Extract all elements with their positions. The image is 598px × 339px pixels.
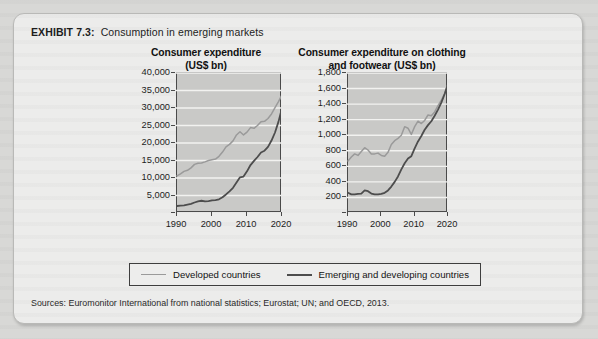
legend-item-emerging: Emerging and developing countries — [287, 269, 469, 280]
chart-right-y-axis-tick-label: 1,200 — [318, 114, 341, 124]
chart-legend: Developed countries Emerging and develop… — [129, 263, 481, 286]
legend-label-emerging: Emerging and developing countries — [319, 269, 469, 280]
chart-right-y-axis-tick-mark — [342, 72, 346, 73]
chart-left-y-axis-tick-label: 30,000 — [142, 102, 170, 112]
chart-left-x-axis-tick-label: 1990 — [166, 219, 187, 229]
chart-right-y-axis-tick-mark — [342, 103, 346, 104]
exhibit-card: EXHIBIT 7.3:Consumption in emerging mark… — [13, 13, 583, 324]
chart-left-plot-wrap: 40,00035,00030,00025,00020,00015,00010,0… — [122, 72, 290, 247]
chart-right-y-axis-tick-mark — [342, 119, 346, 120]
chart-right-x-axis-tick-label: 2020 — [437, 219, 458, 229]
chart-left-y-axis-tick-mark — [171, 142, 175, 143]
exhibit-title-text: Consumption in emerging markets — [101, 26, 264, 38]
chart-left-title-line-1: Consumer expenditure — [122, 47, 290, 60]
chart-right-x-axis-tick-mark — [447, 212, 448, 216]
chart-left-y-axis-tick-mark — [171, 90, 175, 91]
sources-note: Sources: Euromonitor International from … — [31, 298, 389, 308]
chart-left-y-axis-tick-mark — [171, 107, 175, 108]
chart-left-plot-area — [176, 72, 281, 212]
chart-right-y-axis-tick-mark — [342, 181, 346, 182]
chart-left-y-axis: 40,00035,00030,00025,00020,00015,00010,0… — [122, 72, 170, 212]
legend-line-emerging-icon — [287, 274, 312, 276]
chart-right-x-axis-tick-mark — [347, 212, 348, 216]
chart-right-y-axis-tick-label: 1,800 — [318, 67, 341, 77]
chart-left-y-axis-tick-label: 20,000 — [142, 137, 170, 147]
chart-left-y-axis-tick-mark — [171, 212, 175, 213]
legend-item-developed: Developed countries — [141, 269, 260, 280]
chart-left-x-axis-tick-mark — [246, 212, 247, 216]
chart-left-x-axis-tick-label: 2010 — [236, 219, 257, 229]
chart-right-plot-wrap: 1,8001,6001,4001,2001,000800600400200 19… — [297, 72, 467, 247]
chart-right-y-axis-tick-label: 600 — [325, 160, 341, 170]
series-line-emerging-and-developing-countries — [177, 108, 281, 206]
series-line-developed-countries — [348, 84, 447, 161]
chart-right-y-axis-tick-label: 1,400 — [318, 98, 341, 108]
series-line-developed-countries — [177, 95, 281, 176]
chart-right-y-axis-tick-label: 1,600 — [318, 83, 341, 93]
chart-consumer-expenditure: Consumer expenditure (US$ bn) 40,00035,0… — [122, 47, 290, 247]
chart-left-y-axis-tick-label: 5,000 — [147, 190, 170, 200]
chart-right-y-axis-tick-label: 200 — [325, 191, 341, 201]
chart-left-y-axis-tick-label: 15,000 — [142, 155, 170, 165]
chart-left-y-axis-tick-mark — [171, 160, 175, 161]
chart-left-x-axis-tick-label: 2020 — [271, 219, 292, 229]
chart-right-plot-area — [347, 72, 447, 212]
chart-right-title-line-1: Consumer expenditure on clothing — [297, 47, 467, 60]
exhibit-number-label: EXHIBIT 7.3: — [31, 26, 95, 38]
chart-left-y-axis-tick-label: 35,000 — [142, 85, 170, 95]
chart-right-x-axis-tick-mark — [414, 212, 415, 216]
exhibit-title: EXHIBIT 7.3:Consumption in emerging mark… — [31, 26, 264, 38]
chart-left-svg — [176, 72, 281, 212]
chart-right-y-axis-tick-mark — [342, 196, 346, 197]
chart-right-y-axis-tick-mark — [342, 134, 346, 135]
chart-left-x-axis-tick-mark — [211, 212, 212, 216]
chart-right-y-axis-tick-mark — [342, 150, 346, 151]
chart-left-y-axis-tick-label: 10,000 — [142, 172, 170, 182]
chart-right-svg — [347, 72, 447, 212]
chart-right-y-axis-tick-label: 1,000 — [318, 129, 341, 139]
chart-left-x-axis-tick-mark — [281, 212, 282, 216]
chart-left-x-axis: 1990200020102020 — [176, 216, 281, 230]
chart-left-x-axis-tick-label: 2000 — [201, 219, 222, 229]
chart-left-y-axis-tick-mark — [171, 195, 175, 196]
chart-right-y-axis-tick-label: 400 — [325, 176, 341, 186]
chart-right-y-axis-tick-mark — [342, 212, 346, 213]
legend-label-developed: Developed countries — [173, 269, 260, 280]
chart-left-x-axis-tick-mark — [176, 212, 177, 216]
chart-right-x-axis-tick-label: 2000 — [370, 219, 391, 229]
chart-left-y-axis-tick-label: 25,000 — [142, 120, 170, 130]
chart-right-x-axis: 1990200020102020 — [347, 216, 447, 230]
chart-right-x-axis-tick-label: 2010 — [403, 219, 424, 229]
chart-left-y-axis-tick-mark — [171, 125, 175, 126]
chart-right-y-axis-tick-mark — [342, 165, 346, 166]
chart-left-y-axis-tick-label: 40,000 — [142, 67, 170, 77]
chart-left-y-axis-tick-mark — [171, 177, 175, 178]
chart-right-y-axis-tick-mark — [342, 88, 346, 89]
chart-right-x-axis-tick-mark — [380, 212, 381, 216]
chart-right-y-axis: 1,8001,6001,4001,2001,000800600400200 — [297, 72, 341, 212]
chart-right-x-axis-tick-label: 1990 — [337, 219, 358, 229]
legend-line-developed-icon — [141, 274, 166, 275]
chart-right-y-axis-tick-label: 800 — [325, 145, 341, 155]
chart-left-y-axis-tick-mark — [171, 72, 175, 73]
chart-clothing-footwear-expenditure: Consumer expenditure on clothing and foo… — [297, 47, 467, 247]
